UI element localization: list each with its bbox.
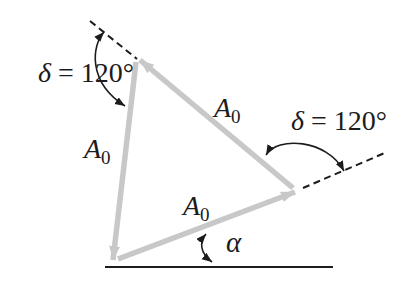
angle-arc-delta-right (266, 143, 344, 171)
angle-arc-alpha (202, 234, 212, 262)
vector-triangle-figure: δ= 120° δ= 120° α A0 A0 A0 (0, 0, 397, 288)
A0-base: A (181, 190, 201, 221)
label-alpha: α (226, 226, 242, 258)
A0-base: A (82, 133, 102, 164)
A0-subscript: 0 (231, 106, 241, 127)
A0-base: A (212, 92, 232, 123)
vector-bottom-A0 (118, 192, 295, 259)
delta-symbol: δ (291, 105, 305, 136)
label-A0-diagonal: A0 (212, 92, 241, 127)
label-delta-top: δ= 120° (38, 57, 134, 88)
figure-svg: δ= 120° δ= 120° α A0 A0 A0 (0, 0, 397, 288)
dashed-extension-right (303, 152, 387, 188)
A0-subscript: 0 (200, 204, 210, 225)
dashed-extension-top (90, 21, 137, 59)
vector-left-A0 (113, 62, 136, 260)
vector-diagonal-A0 (140, 60, 293, 188)
label-A0-left: A0 (82, 133, 111, 168)
delta-symbol: δ (38, 57, 52, 88)
label-A0-bottom: A0 (181, 190, 210, 225)
delta-value: = 120° (58, 57, 134, 88)
A0-subscript: 0 (101, 147, 111, 168)
label-delta-right: δ= 120° (291, 105, 387, 136)
delta-value: = 120° (311, 105, 387, 136)
